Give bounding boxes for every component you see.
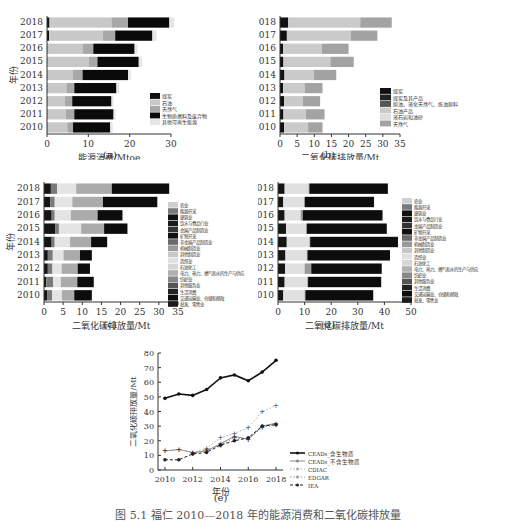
legend-label: 农业 — [414, 198, 423, 205]
y-axis-label: 二氧化碳排放量/Mt — [130, 376, 138, 447]
bar-segment — [49, 31, 103, 41]
data-point — [177, 458, 181, 462]
bar-segment — [128, 70, 131, 80]
bar-segment — [112, 183, 169, 193]
chart-d-co2-by-sector: 2010201120122013201420152016201720180102… — [258, 160, 516, 330]
bar-segment — [73, 122, 110, 132]
x-tick-label: 30 — [377, 139, 389, 149]
legend-swatch — [380, 88, 391, 94]
x-tick-label: 15 — [326, 139, 338, 149]
bar-segment — [285, 250, 306, 260]
legend-swatch — [168, 270, 178, 276]
legend-label: 其他服务业 — [180, 282, 201, 289]
legend-swatch — [168, 245, 178, 251]
legend-label: 其他制造业 — [180, 251, 201, 258]
bar-segment — [305, 197, 374, 207]
bar-segment — [285, 210, 301, 220]
bar-segment — [114, 109, 116, 119]
legend-label: 饮水与食品行业 — [414, 216, 443, 223]
bar-segment — [309, 183, 387, 193]
bar-segment — [66, 109, 74, 119]
year-label: 2018 — [17, 183, 40, 193]
bar-segment — [53, 277, 61, 287]
bar-segment — [98, 210, 123, 220]
data-point — [191, 394, 195, 398]
x-axis-label: 二氧化碳排放量/Mt — [305, 320, 384, 330]
bar-segment — [285, 183, 309, 193]
y-tick-label: 70 — [144, 364, 154, 373]
year-label: 2017 — [17, 197, 40, 207]
legend-label: 生活消费 — [414, 285, 431, 292]
bar-segment — [50, 197, 55, 207]
bar-segment — [283, 83, 305, 93]
year-label: 2017 — [258, 30, 276, 40]
legend-swatch — [402, 198, 412, 204]
year-label: 2011 — [258, 277, 274, 287]
bar-segment — [284, 96, 303, 106]
bar-segment — [307, 250, 308, 260]
legend-label: 其他制造业 — [414, 247, 435, 254]
legend-label: 能源开采 — [414, 204, 431, 211]
year-label: 2015 — [258, 223, 274, 233]
year-label: 2010 — [20, 122, 43, 132]
x-tick-label: 30 — [165, 139, 177, 149]
y-tick-label: 50 — [144, 393, 154, 402]
year-label: 2011 — [20, 109, 43, 119]
legend-label: 金属产品制造业 — [414, 223, 443, 230]
bar-segment — [303, 96, 320, 106]
bar-segment — [103, 31, 115, 41]
bar-segment — [47, 70, 73, 80]
data-point — [246, 436, 250, 440]
legend-label: EDGAR — [308, 475, 330, 481]
bar-segment — [83, 70, 128, 80]
legend-label: 批发、零售业 — [414, 297, 439, 304]
x-tick-label: 35 — [394, 139, 406, 149]
legend-label: IEA — [308, 483, 319, 489]
bar-segment — [103, 197, 157, 207]
bar-segment — [330, 57, 353, 67]
legend-label: 电力、热力、燃气和水的生产与供应 — [414, 266, 479, 273]
legend-swatch — [168, 202, 178, 208]
bar-segment — [93, 44, 134, 54]
legend-marker — [296, 460, 299, 463]
legend-swatch — [168, 252, 178, 258]
data-point — [260, 424, 264, 428]
bar-segment — [305, 83, 323, 93]
data-point — [177, 392, 181, 396]
bar-segment — [48, 250, 53, 260]
x-tick-label: 0 — [41, 307, 47, 317]
year-label: 2016 — [17, 210, 40, 220]
legend-swatch — [402, 266, 412, 272]
data-point — [274, 423, 278, 427]
bar-segment — [47, 83, 66, 93]
bar-segment — [286, 223, 306, 233]
year-label: 2017 — [20, 30, 43, 40]
x-tick-label: 20 — [115, 307, 127, 317]
bar-segment — [52, 210, 55, 220]
legend-swatch — [402, 229, 412, 235]
legend-label: 非金属产品制造业 — [180, 239, 213, 246]
x-tick-label: 30 — [153, 307, 165, 317]
bar-segment — [278, 277, 285, 287]
legend-label: 金属产品制造业 — [180, 227, 209, 234]
x-tick-label: 5 — [294, 139, 300, 149]
x-tick-label: 15 — [96, 307, 108, 317]
bar-segment — [110, 122, 112, 132]
y-tick-label: 30 — [144, 422, 154, 431]
bar-segment — [61, 277, 77, 287]
bar-segment — [72, 197, 103, 207]
bar-segment — [74, 109, 113, 119]
bar-segment — [278, 263, 285, 273]
y-tick-label: 60 — [144, 378, 154, 387]
bar-segment — [301, 210, 303, 220]
year-label: 2017 — [258, 197, 274, 207]
legend-label: 生活消费 — [180, 289, 197, 296]
data-point — [163, 397, 167, 401]
bar-segment — [278, 290, 283, 300]
data-point — [246, 379, 250, 383]
legend-label: 饮水与食品行业 — [180, 220, 209, 227]
chart-c-co2-by-sector: 2010201120122013201420152016201720180510… — [0, 160, 260, 330]
bar-segment — [67, 122, 73, 132]
bar-segment — [71, 210, 98, 220]
x-tick-label: 5 — [60, 307, 66, 317]
